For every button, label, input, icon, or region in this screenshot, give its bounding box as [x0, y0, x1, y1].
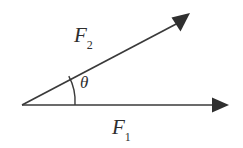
f2-label-symbol: F — [74, 23, 87, 47]
f2-arrowhead-icon — [172, 13, 191, 32]
f1-label-subscript: 1 — [125, 130, 131, 144]
vector-diagram-figure: F2 θ F1 — [0, 0, 243, 148]
f1-label-symbol: F — [112, 115, 125, 139]
theta-label: θ — [80, 74, 88, 91]
f1-label: F1 — [112, 117, 131, 140]
f2-label: F2 — [74, 25, 93, 48]
f2-vector-shaft — [22, 22, 180, 105]
f1-arrowhead-icon — [212, 98, 229, 113]
f2-label-subscript: 2 — [87, 38, 93, 52]
